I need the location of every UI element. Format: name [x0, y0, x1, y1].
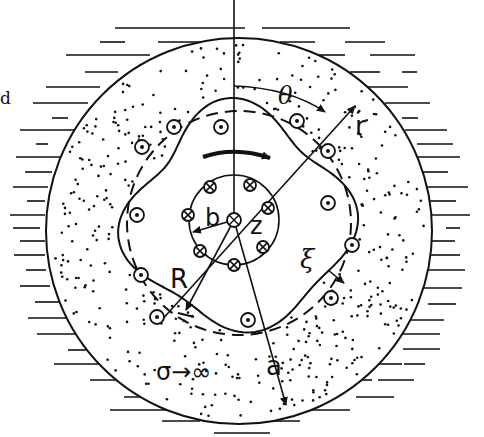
stipple-dot	[418, 208, 421, 211]
stipple-dot	[90, 264, 93, 267]
stipple-dot	[174, 332, 177, 335]
stipple-dot	[185, 70, 188, 73]
stipple-dot	[71, 240, 74, 243]
stipple-dot	[363, 224, 366, 227]
stipple-dot	[292, 348, 295, 351]
stipple-dot	[143, 373, 146, 376]
stipple-dot	[239, 414, 242, 417]
stipple-dot	[368, 306, 371, 309]
inner-conductor-cross-icon	[194, 245, 206, 257]
stipple-dot	[316, 340, 319, 343]
stipple-dot	[95, 118, 98, 121]
stipple-dot	[127, 132, 130, 135]
stipple-dot	[159, 293, 162, 296]
stipple-dot	[368, 299, 371, 302]
stipple-dot	[395, 304, 398, 307]
stipple-dot	[412, 252, 415, 255]
stipple-dot	[136, 307, 139, 310]
stipple-dot	[389, 305, 392, 308]
stipple-dot	[98, 225, 101, 228]
stipple-dot	[142, 134, 145, 137]
stipple-dot	[356, 314, 359, 317]
stipple-dot	[318, 137, 321, 140]
stipple-dot	[368, 251, 371, 254]
stipple-dot	[216, 353, 219, 356]
stipple-dot	[69, 211, 72, 214]
stipple-dot	[351, 362, 354, 365]
stipple-dot	[387, 265, 390, 268]
label-d: d	[0, 88, 11, 108]
stipple-dot	[100, 165, 103, 168]
stipple-dot	[67, 260, 70, 263]
stipple-dot	[102, 138, 105, 141]
stipple-dot	[220, 339, 223, 342]
stipple-dot	[405, 260, 408, 263]
stipple-dot	[142, 318, 145, 321]
stipple-dot	[401, 269, 404, 272]
stipple-dot	[108, 233, 111, 236]
stipple-dot	[97, 175, 100, 178]
stipple-dot	[345, 366, 348, 369]
stipple-dot	[71, 145, 74, 148]
stipple-dot	[70, 192, 73, 195]
stipple-dot	[79, 157, 82, 160]
stipple-dot	[364, 283, 367, 286]
stipple-dot	[191, 50, 194, 53]
stipple-dot	[338, 273, 341, 276]
stipple-dot	[114, 121, 117, 124]
stipple-dot	[159, 121, 162, 124]
stipple-dot	[416, 210, 419, 213]
stipple-dot	[319, 344, 322, 347]
stipple-dot	[62, 259, 65, 262]
stipple-dot	[138, 135, 141, 138]
diagram-canvas: d θ r b z R ξ a σ→∞	[0, 0, 484, 437]
stipple-dot	[98, 307, 101, 310]
stipple-dot	[312, 391, 315, 394]
stipple-dot	[389, 126, 392, 129]
stipple-dot	[215, 372, 218, 375]
stipple-dot	[305, 341, 308, 344]
stipple-dot	[174, 108, 177, 111]
stipple-dot	[127, 184, 130, 187]
stipple-dot	[112, 121, 115, 124]
stipple-dot	[255, 358, 258, 361]
stipple-dot	[88, 321, 91, 324]
stipple-dot	[333, 319, 336, 322]
stipple-dot	[147, 383, 150, 386]
stipple-dot	[62, 202, 65, 205]
stipple-dot	[396, 320, 399, 323]
stipple-dot	[224, 363, 227, 366]
stipple-dot	[379, 246, 382, 249]
stipple-dot	[86, 248, 89, 251]
stipple-dot	[124, 109, 127, 112]
stipple-dot	[393, 185, 396, 188]
stipple-dot	[118, 130, 121, 133]
stipple-dot	[189, 326, 192, 329]
stipple-dot	[64, 213, 67, 216]
stipple-dot	[92, 279, 95, 282]
stipple-dot	[293, 404, 296, 407]
stipple-dot	[150, 126, 153, 129]
stipple-dot	[202, 393, 205, 396]
stipple-dot	[159, 111, 162, 114]
stipple-dot	[237, 398, 240, 401]
stipple-dot	[301, 65, 304, 68]
stipple-dot	[92, 234, 95, 237]
outer-conductor-dot-icon	[345, 238, 359, 252]
stipple-dot	[279, 408, 282, 411]
outer-conductor-dot-icon	[134, 268, 148, 282]
stipple-dot	[132, 105, 135, 108]
stipple-dot	[202, 82, 205, 85]
stipple-dot	[381, 144, 384, 147]
stipple-dot	[137, 365, 140, 368]
stipple-dot	[202, 96, 205, 99]
stipple-dot	[420, 200, 423, 203]
stipple-dot	[286, 326, 289, 329]
stipple-dot	[400, 307, 403, 310]
stipple-dot	[338, 159, 341, 162]
stipple-dot	[91, 132, 94, 135]
label-z: z	[250, 212, 263, 240]
outer-conductor-dot-icon	[241, 313, 255, 327]
stipple-dot	[164, 145, 167, 148]
outer-conductor-dot-icon	[130, 208, 144, 222]
